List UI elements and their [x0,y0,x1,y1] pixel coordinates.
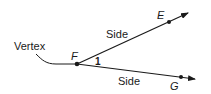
point-e-label: E [157,9,165,21]
ray-fe [77,13,188,64]
point-e-dot [167,20,171,24]
side-lower-label: Side [118,75,140,87]
point-f-dot [75,62,80,67]
point-g-dot [179,75,183,79]
vertex-caption: Vertex [14,40,46,52]
side-upper-label: Side [106,28,128,40]
angle-diagram: Vertex F E G Side Side 1 [0,0,211,94]
point-f-label: F [71,50,79,62]
point-g-label: G [170,80,179,92]
vertex-leader-line [36,54,75,64]
angle-number-label: 1 [95,56,101,67]
